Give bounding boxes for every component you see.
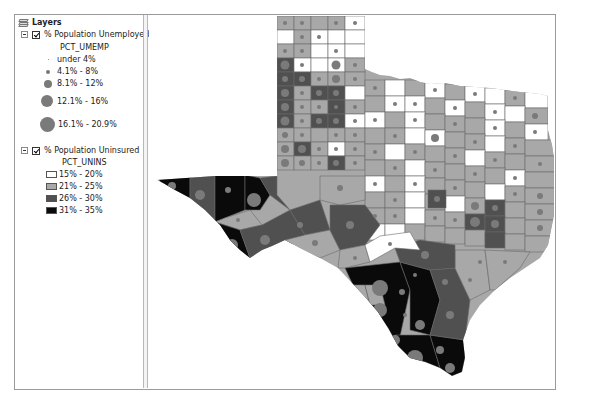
legend-class-label: 15% - 20% <box>59 170 103 179</box>
layer-uninsured-field: PCT_UNINS <box>62 158 107 167</box>
collapse-icon[interactable] <box>21 147 28 154</box>
layers-root[interactable]: Layers <box>19 18 62 27</box>
legend-class-label: 31% - 35% <box>59 206 103 215</box>
layer-unemployed-name: % Population Unemployed <box>44 30 149 39</box>
legend-class-label: 21% - 25% <box>59 182 103 191</box>
legend-class: 16.1% - 20.9% <box>38 117 117 132</box>
legend-class-label: under 4% <box>57 55 96 64</box>
legend-class: 4.1% - 8% <box>41 67 98 76</box>
texas-choropleth-map <box>149 15 554 388</box>
color-swatch-icon <box>46 183 57 190</box>
legend-class: 31% - 35% <box>46 206 103 215</box>
graduated-symbol-icon <box>40 117 55 132</box>
graduated-symbol-icon <box>41 95 53 107</box>
legend-class: 21% - 25% <box>46 182 103 191</box>
legend-class: 8.1% - 12% <box>41 79 103 88</box>
legend-class: under 4% <box>41 55 96 64</box>
legend-class-label: 8.1% - 12% <box>57 79 103 88</box>
field-name: PCT_UNINS <box>62 158 107 167</box>
legend-class: 15% - 20% <box>46 170 103 179</box>
graduated-symbol-icon <box>46 70 50 74</box>
legend-class: 26% - 30% <box>46 194 103 203</box>
layer-uninsured-name: % Population Uninsured <box>44 146 139 155</box>
panel-splitter[interactable] <box>143 15 148 388</box>
field-name: PCT_UMEMP <box>60 43 109 52</box>
layer-uninsured[interactable]: % Population Uninsured <box>21 146 139 155</box>
legend-class-label: 4.1% - 8% <box>57 67 98 76</box>
layer-uninsured-checkbox[interactable] <box>32 147 40 155</box>
color-swatch-icon <box>46 171 57 178</box>
legend-class-label: 12.1% - 16% <box>57 97 108 106</box>
legend-class-label: 16.1% - 20.9% <box>58 120 117 129</box>
table-of-contents: Layers % Population Unemployed PCT_UMEMP… <box>15 15 143 387</box>
legend-class-label: 26% - 30% <box>59 194 103 203</box>
graduated-symbol-icon <box>44 80 52 88</box>
legend-class: 12.1% - 16% <box>39 95 108 107</box>
map-view[interactable] <box>149 15 554 388</box>
color-swatch-icon <box>46 195 57 202</box>
layer-unemployed-field: PCT_UMEMP <box>60 43 109 52</box>
collapse-icon[interactable] <box>21 31 28 38</box>
layer-unemployed[interactable]: % Population Unemployed <box>21 30 149 39</box>
layers-root-label: Layers <box>32 18 62 27</box>
layers-icon <box>19 19 29 27</box>
color-swatch-icon <box>46 207 57 214</box>
layer-unemployed-checkbox[interactable] <box>32 31 40 39</box>
graduated-symbol-icon <box>48 59 49 60</box>
